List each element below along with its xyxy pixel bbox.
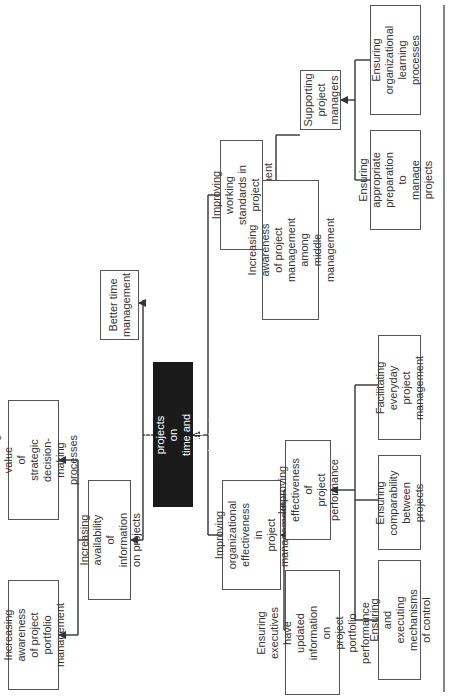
node-middle-mgmt-awareness: Increasing awareness of project manageme… xyxy=(262,180,319,320)
node-label: Facilitating everyday project management xyxy=(374,355,426,419)
node-label: Ensuring appropriate preparation to mana… xyxy=(357,152,435,208)
node-supporting-pms: Supporting project managers xyxy=(300,70,341,130)
node-label: Increasing availability of information o… xyxy=(77,513,142,567)
node-label: Increasing awareness of project manageme… xyxy=(245,218,336,282)
node-label: Supporting project managers xyxy=(301,73,340,126)
node-executives-info: Ensuring executives have updated informa… xyxy=(285,570,340,695)
node-project-performance: Improving effectiveness of project perfo… xyxy=(285,440,331,540)
node-info-availability: Increasing availability of information o… xyxy=(88,480,131,600)
node-label: Better time management xyxy=(107,273,133,337)
node-label: Increasing awareness of project portfoli… xyxy=(1,603,66,667)
node-org-effectiveness: Improving organizational effectiveness i… xyxy=(222,480,281,590)
node-label: Ensuring and executing mechanisms of con… xyxy=(367,589,432,651)
node-label: Ensuring comparability between projects xyxy=(374,470,426,535)
root-goal-node: Complete more projects on time and withi… xyxy=(153,362,193,507)
node-appropriate-preparation: Ensuring appropriate preparation to mana… xyxy=(370,130,421,230)
node-label: Increasing value of strategic decision- … xyxy=(0,435,79,486)
node-label: Improving effectiveness of project perfo… xyxy=(276,458,341,522)
node-better-time: Better time management xyxy=(100,270,139,340)
node-label: Ensuring executives have updated informa… xyxy=(254,602,371,664)
node-comparability: Ensuring comparability between projects xyxy=(378,455,421,550)
node-everyday-mgmt: Facilitating everyday project management xyxy=(378,335,421,440)
root-goal-label: Complete more projects on time and withi… xyxy=(128,411,219,458)
node-org-learning: Ensuring organizational learning process… xyxy=(370,5,421,115)
node-portfolio-awareness: Increasing awareness of project portfoli… xyxy=(8,580,59,690)
node-strategic-value: Increasing value of strategic decision- … xyxy=(8,400,59,520)
node-control-mechanisms: Ensuring and executing mechanisms of con… xyxy=(378,560,421,680)
node-label: Ensuring organizational learning process… xyxy=(370,26,422,95)
